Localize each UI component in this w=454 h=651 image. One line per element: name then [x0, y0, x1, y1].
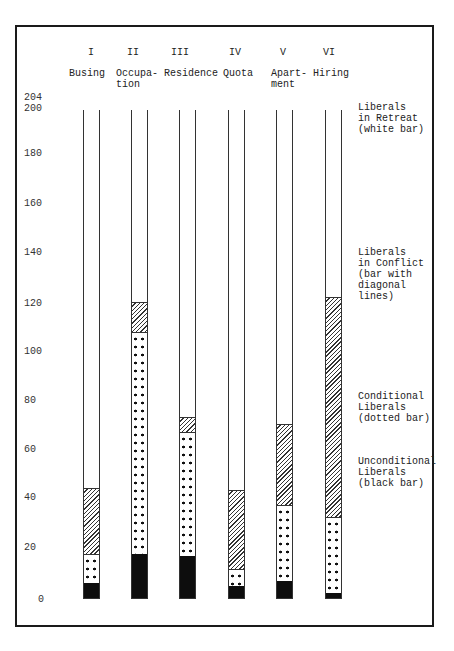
segment-retreat — [84, 109, 99, 488]
segment-unconditional — [326, 593, 341, 598]
segment-retreat — [132, 109, 147, 302]
category-label-hiring: Hiring — [313, 68, 349, 79]
segment-retreat — [277, 109, 292, 424]
y-tick-204: 204 — [24, 92, 42, 103]
legend-conditional: Conditional Liberals (dotted bar) — [358, 391, 430, 424]
bar-busing — [83, 110, 100, 599]
category-label-residence: Residence — [164, 68, 218, 79]
segment-conditional — [229, 569, 244, 586]
segment-unconditional — [229, 586, 244, 598]
segment-conflict — [84, 488, 99, 554]
y-tick-60: 60 — [24, 444, 36, 455]
segment-conditional — [84, 554, 99, 583]
y-tick-20: 20 — [24, 542, 36, 553]
y-tick-40: 40 — [24, 492, 36, 503]
category-label-apartment: Apart- ment — [271, 68, 307, 90]
y-tick-180: 180 — [24, 148, 42, 159]
bar-residence — [179, 110, 196, 599]
y-tick-140: 140 — [24, 247, 42, 258]
segment-unconditional — [180, 556, 195, 598]
bar-hiring — [325, 110, 342, 599]
bar-occupation — [131, 110, 148, 599]
segment-conditional — [326, 517, 341, 593]
y-tick-80: 80 — [24, 395, 36, 406]
segment-conflict — [132, 302, 147, 331]
segment-conflict — [229, 490, 244, 568]
y-tick-120: 120 — [24, 298, 42, 309]
category-label-busing: Busing — [69, 68, 105, 79]
roman-label-4: IV — [215, 47, 255, 58]
segment-unconditional — [277, 581, 292, 598]
legend-conflict: Liberals in Conflict (bar with diagonal … — [358, 247, 424, 302]
segment-conditional — [132, 332, 147, 554]
category-label-occupation: Occupa- tion — [116, 68, 158, 90]
segment-retreat — [229, 109, 244, 490]
segment-conflict — [326, 297, 341, 517]
segment-unconditional — [132, 554, 147, 598]
legend-unconditional: Unconditional Liberals (black bar) — [358, 456, 436, 489]
bar-apartment — [276, 110, 293, 599]
segment-conditional — [180, 432, 195, 557]
segment-retreat — [180, 109, 195, 417]
segment-conflict — [180, 417, 195, 432]
y-tick-160: 160 — [24, 198, 42, 209]
y-tick-0: 0 — [38, 594, 44, 605]
roman-label-3: III — [160, 47, 200, 58]
segment-conditional — [277, 505, 292, 581]
roman-label-1: I — [71, 47, 111, 58]
bar-quota — [228, 110, 245, 599]
y-tick-100: 100 — [24, 346, 42, 357]
segment-unconditional — [84, 583, 99, 598]
category-label-quota: Quota — [223, 68, 253, 79]
roman-label-2: II — [113, 47, 153, 58]
y-tick-200: 200 — [24, 103, 42, 114]
segment-conflict — [277, 424, 292, 505]
roman-label-5: V — [263, 47, 303, 58]
legend-retreat: Liberals in Retreat (white bar) — [358, 102, 424, 135]
segment-retreat — [326, 109, 341, 297]
roman-label-6: VI — [309, 47, 349, 58]
